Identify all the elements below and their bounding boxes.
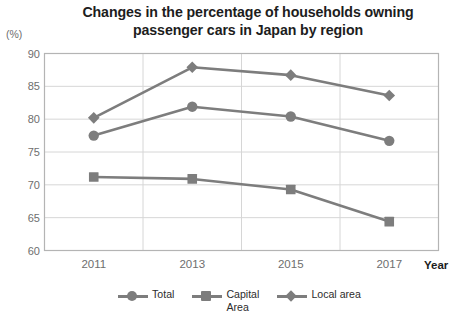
legend-key-marker [286, 290, 297, 301]
data-point-circle [286, 111, 296, 121]
data-point-square [286, 185, 296, 195]
data-point-diamond [88, 112, 100, 124]
legend-key-marker [201, 291, 211, 301]
legend-label: Capital Area [226, 288, 259, 314]
legend-item-local-area[interactable]: Local area [277, 288, 360, 303]
data-point-diamond [186, 61, 198, 73]
legend-item-capital-area[interactable]: Capital Area [192, 288, 259, 314]
data-point-square [89, 172, 99, 182]
data-point-square [187, 174, 197, 184]
legend-label: Local area [311, 288, 360, 301]
legend-key-marker [127, 291, 137, 301]
legend-item-total[interactable]: Total [118, 288, 174, 303]
legend-marker-diamond-icon [277, 289, 307, 303]
legend-label: Total [152, 288, 174, 301]
chart-legend: TotalCapital AreaLocal area [118, 288, 418, 318]
data-point-square [384, 217, 394, 227]
legend-marker-circle-icon [118, 289, 148, 303]
data-point-circle [187, 101, 197, 111]
legend-marker-square-icon [192, 289, 222, 303]
data-point-circle [384, 136, 394, 146]
data-point-diamond [285, 69, 297, 81]
data-point-circle [89, 130, 99, 140]
plot-area [0, 0, 459, 319]
chart-container: Changes in the percentage of households … [0, 0, 459, 319]
data-point-diamond [383, 90, 395, 102]
